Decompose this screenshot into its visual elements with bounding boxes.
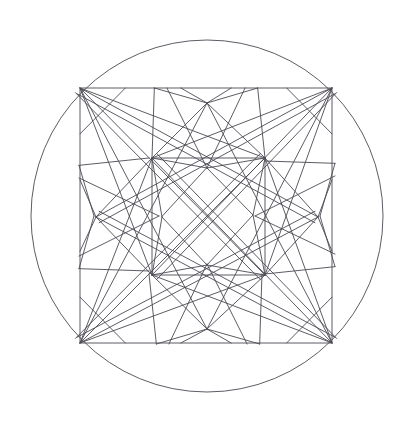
edge-connector-4	[181, 88, 207, 103]
corner-arm-line-3	[265, 88, 332, 275]
geometry-svg	[0, 0, 410, 431]
edge-connector-1	[80, 217, 96, 251]
corner-fan-line-2	[152, 158, 332, 343]
strap-line-0	[75, 93, 260, 280]
edge-connector-2	[318, 180, 332, 217]
edge-connector-5	[207, 88, 231, 103]
ray-right-4	[265, 161, 335, 163]
ray-top-1	[207, 88, 258, 103]
corner-arm-line-5	[265, 158, 332, 343]
strap-line-6	[99, 211, 335, 337]
ray-right-5	[265, 267, 335, 274]
octagon-ring-line-4	[207, 275, 265, 329]
ray-left-0	[79, 216, 94, 269]
ray-left-4	[79, 269, 149, 271]
ray-right-0	[320, 163, 335, 216]
corner-fan-line-0	[80, 88, 265, 275]
ray-left-1	[79, 165, 94, 216]
hub-spoke-line-5	[253, 215, 265, 275]
ray-top-0	[154, 88, 207, 103]
corner-arm-line-1	[80, 88, 152, 275]
star-pattern-layer	[75, 88, 336, 344]
ray-bottom-5	[149, 274, 156, 344]
hub-spoke-line-3	[253, 158, 265, 215]
ray-top-4	[152, 88, 154, 158]
ray-bottom-1	[156, 329, 207, 344]
ray-left-5	[79, 158, 149, 165]
corner-arm-line-4	[152, 275, 332, 343]
edge-connector-3	[318, 217, 332, 251]
edge-connector-7	[207, 329, 231, 343]
octagon-ring-line-3	[265, 217, 318, 275]
octagon-ring-line-6	[96, 217, 152, 275]
ray-bottom-0	[207, 329, 260, 344]
corner-arm-line-2	[152, 88, 332, 158]
ray-top-3	[207, 88, 245, 168]
ray-bottom-4	[260, 274, 262, 344]
ray-right-2	[255, 176, 335, 216]
ray-top-5	[258, 88, 265, 158]
geometric-figure-canvas: Geometric star construction in circle an…	[0, 0, 410, 431]
